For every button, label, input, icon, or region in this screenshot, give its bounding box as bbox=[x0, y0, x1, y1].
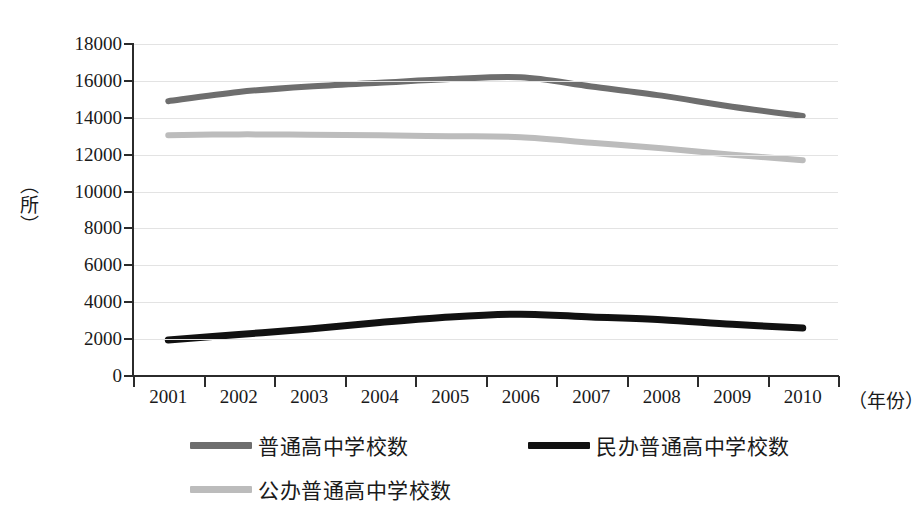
gridline bbox=[133, 228, 838, 229]
y-axis-tick bbox=[124, 301, 134, 303]
y-axis-tick-label: 18000 bbox=[30, 34, 122, 53]
legend-swatch-icon bbox=[528, 442, 590, 449]
series-line bbox=[168, 77, 803, 116]
series-line bbox=[168, 134, 803, 160]
y-axis-tick bbox=[124, 191, 134, 193]
x-axis-title: （年份） bbox=[848, 386, 924, 413]
y-axis-tick-label: 12000 bbox=[30, 145, 122, 164]
y-axis-tick-label: 8000 bbox=[30, 218, 122, 237]
gridline bbox=[133, 302, 838, 303]
gridline bbox=[133, 44, 838, 45]
legend-item-0[interactable]: 普通高中学校数 bbox=[190, 430, 409, 460]
y-axis-tick bbox=[124, 264, 134, 266]
gridline bbox=[133, 192, 838, 193]
y-axis-tick-label: 16000 bbox=[30, 71, 122, 90]
legend-item-2[interactable]: 公办普通高中学校数 bbox=[190, 474, 452, 504]
plot-area bbox=[133, 44, 838, 376]
gridline bbox=[133, 155, 838, 156]
legend-swatch-icon bbox=[190, 442, 252, 449]
y-axis-tick-label: 10000 bbox=[30, 182, 122, 201]
y-axis-tick-label: 14000 bbox=[30, 108, 122, 127]
x-axis-tick-label: 2010 bbox=[758, 386, 848, 408]
legend-label: 民办普通高中学校数 bbox=[596, 430, 790, 460]
y-axis-tick-label: 0 bbox=[30, 366, 122, 385]
series-lines bbox=[133, 44, 838, 376]
chart-legend: 普通高中学校数 民办普通高中学校数 公办普通高中学校数 bbox=[0, 424, 924, 512]
gridline bbox=[133, 265, 838, 266]
y-axis-tick-labels: 0200040006000800010000120001400016000180… bbox=[22, 44, 122, 376]
legend-label: 公办普通高中学校数 bbox=[258, 474, 452, 504]
chart-page: （所） 020004000600080001000012000140001600… bbox=[0, 0, 924, 512]
y-axis-tick bbox=[124, 338, 134, 340]
y-axis-tick bbox=[124, 80, 134, 82]
y-axis-tick-label: 4000 bbox=[30, 292, 122, 311]
y-axis-tick bbox=[124, 227, 134, 229]
series-line bbox=[168, 314, 803, 340]
legend-label: 普通高中学校数 bbox=[258, 430, 409, 460]
legend-item-1[interactable]: 民办普通高中学校数 bbox=[528, 430, 790, 460]
y-axis-tick-label: 2000 bbox=[30, 329, 122, 348]
y-axis-tick bbox=[124, 43, 134, 45]
y-axis-tick bbox=[124, 117, 134, 119]
legend-swatch-icon bbox=[190, 486, 252, 493]
y-axis-tick bbox=[124, 154, 134, 156]
gridline bbox=[133, 118, 838, 119]
gridline bbox=[133, 81, 838, 82]
y-axis-tick-label: 6000 bbox=[30, 255, 122, 274]
gridline bbox=[133, 339, 838, 340]
